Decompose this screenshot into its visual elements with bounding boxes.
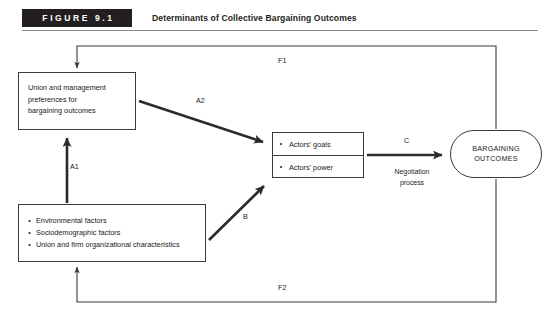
actors-goals-label: Actors' goals [289, 140, 331, 149]
factors-bullet-2: • Sociodemographic factors [23, 227, 205, 239]
bullet-icon: • [23, 227, 36, 239]
edge-label-a2: A2 [196, 96, 205, 105]
node-preferences-box: Union and management preferences for bar… [18, 72, 136, 130]
factors-bullet-2-label: Sociodemographic factors [36, 227, 120, 239]
outcomes-line-2: OUTCOMES [474, 154, 518, 165]
preferences-line-2: preferences for [28, 94, 135, 106]
preferences-line-1: Union and management [28, 82, 135, 94]
negotiation-line-1: Negotiation [382, 167, 442, 178]
header-divider [22, 30, 538, 31]
figure-title: Determinants of Collective Bargaining Ou… [152, 9, 357, 27]
factors-bullet-1: • Environmental factors [23, 215, 205, 227]
node-factors-box: • Environmental factors • Sociodemograph… [18, 204, 206, 262]
edge-label-b: B [243, 212, 248, 221]
preferences-line-3: bargaining outcomes [28, 105, 135, 117]
node-bargaining-outcomes-oval: BARGAINING OUTCOMES [450, 130, 542, 178]
edge-label-negotiation-process: Negotiation process [382, 167, 442, 188]
edge-a2 [139, 101, 263, 142]
edge-label-f1: F1 [278, 56, 286, 65]
edge-f1 [77, 46, 496, 129]
outcomes-line-1: BARGAINING [472, 144, 520, 155]
edge-b [209, 186, 264, 240]
actors-goals-cell: • Actors' goals [273, 133, 363, 156]
node-actors-box: • Actors' goals • Actors' power [272, 132, 364, 178]
bullet-icon: • [23, 215, 36, 227]
figure-root: FIGURE 9.1 Determinants of Collective Ba… [0, 0, 560, 319]
negotiation-line-2: process [382, 178, 442, 189]
factors-bullet-3-label: Union and firm organizational characteri… [36, 239, 180, 251]
bullet-icon: • [273, 138, 289, 150]
figure-header: FIGURE 9.1 Determinants of Collective Ba… [22, 9, 538, 27]
bullet-icon: • [23, 239, 36, 251]
actors-power-label: Actors' power [289, 163, 333, 172]
factors-bullet-3: • Union and firm organizational characte… [23, 239, 205, 251]
actors-power-cell: • Actors' power [273, 156, 363, 179]
edge-label-f2: F2 [278, 283, 286, 292]
figure-number-badge: FIGURE 9.1 [22, 9, 132, 27]
edge-label-c: C [404, 136, 409, 145]
edge-label-a1: A1 [70, 162, 79, 171]
factors-bullet-1-label: Environmental factors [36, 215, 107, 227]
bullet-icon: • [273, 161, 289, 173]
